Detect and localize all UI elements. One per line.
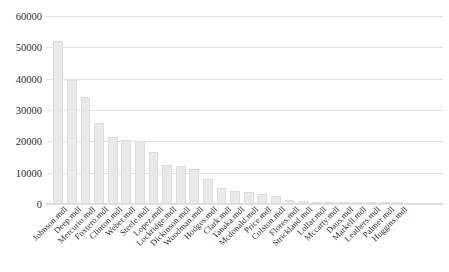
y-axis-tick-label: 10000: [0, 167, 42, 178]
bar: [176, 166, 186, 204]
bar: [189, 169, 199, 204]
plot-area: [46, 16, 443, 204]
bar-chart: 6000050000400003000020000100000 Johnson.…: [0, 0, 449, 272]
y-axis-tick-label: 40000: [0, 73, 42, 84]
y-axis-tick-label: 30000: [0, 105, 42, 116]
y-axis-tick-label: 50000: [0, 42, 42, 53]
bar: [108, 137, 118, 204]
bar: [121, 140, 131, 204]
bar: [257, 194, 267, 204]
bar: [162, 165, 172, 204]
x-axis-labels: Johnson.mdlDeep.mdlMercurio.mdlFoxtero.m…: [46, 204, 443, 272]
bar: [203, 179, 213, 204]
y-axis-tick-label: 60000: [0, 11, 42, 22]
bar-series: [46, 16, 443, 204]
bar: [217, 188, 227, 204]
bar: [149, 152, 159, 204]
bar: [244, 192, 254, 204]
y-axis-tick-label: 0: [0, 199, 42, 210]
bar: [230, 191, 240, 204]
y-axis-tick-label: 20000: [0, 136, 42, 147]
bar: [135, 141, 145, 204]
bar: [53, 41, 63, 204]
bar: [67, 80, 77, 204]
bar: [94, 123, 104, 204]
bar: [81, 97, 91, 204]
